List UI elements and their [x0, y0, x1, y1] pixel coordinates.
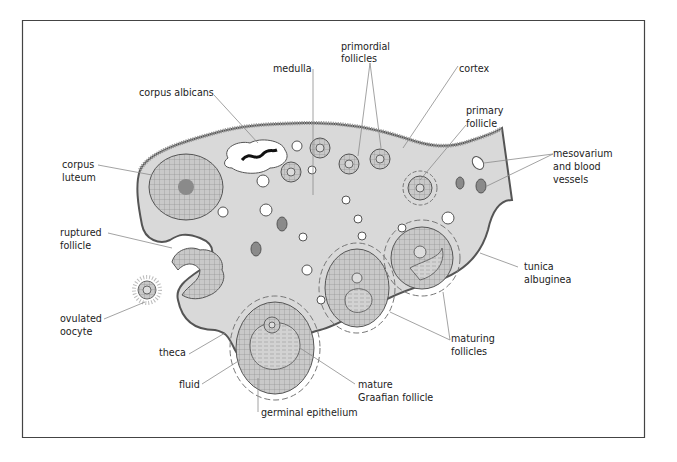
label-mature-graafian-follicle-2: Graafian follicle: [358, 392, 433, 403]
label-ovulated-oocyte-2: oocyte: [60, 326, 92, 337]
primary-follicle: [403, 171, 437, 205]
label-fluid: fluid: [179, 379, 200, 390]
label-corpus-luteum-2: luteum: [62, 172, 96, 183]
label-mature-graafian-follicle: mature: [358, 379, 393, 390]
label-ovulated-oocyte: ovulated: [60, 313, 102, 324]
label-ruptured-follicle-2: follicle: [60, 240, 91, 251]
label-primary-follicle: primary: [466, 105, 504, 116]
label-mesovarium: mesovarium: [553, 148, 613, 159]
label-maturing-follicles-2: follicles: [451, 346, 487, 357]
label-maturing-follicles: maturing: [451, 333, 495, 344]
label-tunica-albuginea-2: albuginea: [524, 274, 571, 285]
mature-graafian-follicle: [230, 296, 320, 400]
label-primary-follicle-2: follicle: [466, 118, 497, 129]
corpus-luteum: [149, 154, 223, 220]
label-mesovarium-3: vessels: [553, 174, 588, 185]
label-tunica-albuginea: tunica: [524, 261, 554, 272]
label-corpus-luteum: corpus: [62, 159, 94, 170]
label-primordial-follicles-2: follicles: [341, 53, 377, 64]
label-mesovarium-2: and blood: [553, 161, 601, 172]
label-theca: theca: [159, 347, 186, 358]
label-primordial-follicles: primordial: [341, 41, 390, 52]
label-corpus-albicans: corpus albicans: [139, 87, 214, 98]
label-cortex: cortex: [459, 63, 490, 74]
ovary-diagram: medulla primordial follicles cortex corp…: [0, 0, 677, 462]
label-germinal-epithelium: germinal epithelium: [261, 407, 358, 418]
label-medulla: medulla: [273, 63, 312, 74]
ovulated-oocyte: [134, 277, 160, 303]
label-ruptured-follicle: ruptured: [60, 227, 102, 238]
